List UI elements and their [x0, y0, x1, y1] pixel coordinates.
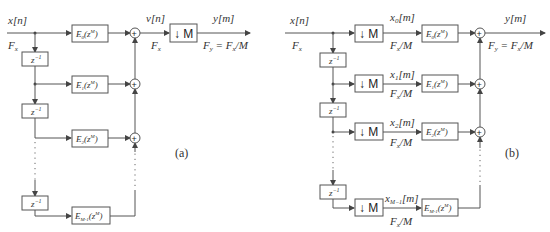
- svg-text:x2[m]: x2[m]: [389, 116, 415, 130]
- svg-text:Fx/M: Fx/M: [389, 39, 413, 53]
- sum-output-label: v[n]: [146, 12, 165, 24]
- svg-text:E0(zM): E0(zM): [75, 29, 98, 40]
- input-rate-label: Fx: [7, 39, 19, 53]
- adder: +: [130, 79, 140, 90]
- decimator-box: ↓ M: [355, 25, 383, 42]
- svg-text:↓ M: ↓ M: [359, 77, 378, 91]
- svg-text:E0(zM): E0(zM): [425, 29, 448, 40]
- decimator-box: ↓ M: [355, 75, 383, 92]
- svg-text:↓ M: ↓ M: [174, 27, 193, 41]
- svg-text:Fx/M: Fx/M: [389, 136, 413, 150]
- svg-text:x0[m]: x0[m]: [389, 11, 415, 25]
- svg-text:↓ M: ↓ M: [359, 201, 378, 215]
- svg-text:+: +: [132, 29, 137, 39]
- svg-text:+: +: [477, 80, 482, 90]
- output-signal-label: y[m]: [212, 12, 234, 24]
- svg-text:E2(zM): E2(zM): [75, 134, 98, 145]
- input-signal-label: x[n]: [289, 14, 309, 26]
- svg-text:↓ M: ↓ M: [359, 27, 378, 41]
- svg-text:E2(zM): E2(zM): [425, 127, 448, 138]
- svg-text:+: +: [477, 128, 482, 138]
- svg-text:+: +: [477, 29, 482, 39]
- output-rate-label: Fy = Fx/M: [487, 39, 534, 53]
- svg-text:+: +: [132, 80, 137, 90]
- polyphase-decimation-diagram: x[n] Fx z−1 z−1 z−1 E0(zM) E1(zM) E2(zM)…: [0, 0, 550, 232]
- svg-text:+: +: [132, 134, 137, 144]
- svg-text:xM−1[m]: xM−1[m]: [384, 192, 418, 205]
- svg-text:x1[m]: x1[m]: [389, 68, 415, 82]
- svg-text:↓ M: ↓ M: [359, 125, 378, 139]
- adder: +: [130, 28, 140, 39]
- output-signal-label: y[m]: [504, 12, 526, 24]
- adder: +: [475, 127, 485, 138]
- svg-text:Fx/M: Fx/M: [389, 87, 413, 101]
- adder: +: [130, 133, 140, 144]
- input-rate-label: Fx: [291, 39, 303, 53]
- caption-a: (a): [175, 146, 188, 160]
- svg-text:E1(zM): E1(zM): [425, 79, 448, 90]
- svg-text:Fx/M: Fx/M: [389, 215, 413, 229]
- adder: +: [475, 79, 485, 90]
- adder: +: [475, 28, 485, 39]
- sum-rate-label: Fx: [150, 39, 162, 53]
- panel-b: x[n] Fx z−1 z−1 z−1 ↓ M ↓ M ↓ M ↓ M x0[m…: [285, 11, 545, 229]
- output-rate-label: Fy = Fx/M: [202, 39, 249, 53]
- svg-text:E1(zM): E1(zM): [75, 80, 98, 91]
- decimator-box: ↓ M: [355, 123, 383, 140]
- decimator-box: ↓ M: [355, 199, 383, 216]
- input-signal-label: x[n]: [7, 14, 27, 26]
- panel-a: x[n] Fx z−1 z−1 z−1 E0(zM) E1(zM) E2(zM)…: [7, 12, 250, 224]
- caption-b: (b): [505, 146, 519, 160]
